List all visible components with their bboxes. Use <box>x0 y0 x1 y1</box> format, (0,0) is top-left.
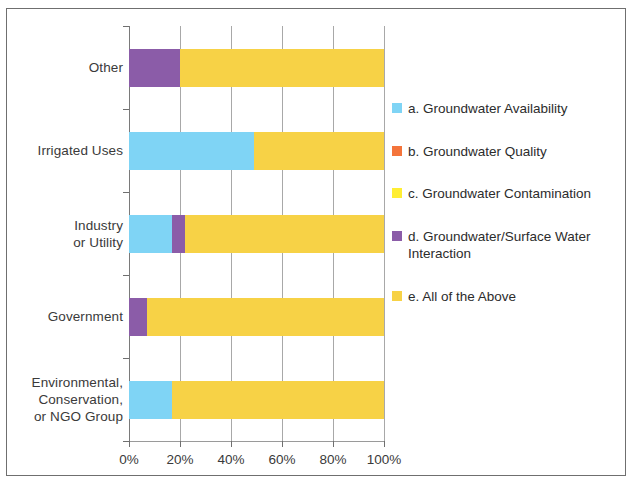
gridline <box>384 26 385 441</box>
bar-segment-d <box>129 49 180 87</box>
y-axis-category-label: Irrigated Uses <box>3 142 123 159</box>
category-label-line: Government <box>3 308 123 325</box>
y-axis-tick <box>123 192 129 193</box>
y-axis-tick <box>123 358 129 359</box>
y-axis-tick <box>123 26 129 27</box>
bar-segment-e <box>185 215 384 253</box>
y-axis-category-label: Industryor Utility <box>3 217 123 251</box>
legend-swatch-icon <box>392 188 402 198</box>
y-axis-labels: OtherIrrigated UsesIndustryor UtilityGov… <box>0 26 123 441</box>
y-axis-category-label: Other <box>3 59 123 76</box>
category-label-line: Irrigated Uses <box>3 142 123 159</box>
legend-label: e. All of the Above <box>408 288 516 306</box>
legend-label: d. Groundwater/Surface Water Interaction <box>408 228 626 263</box>
bar-row <box>129 298 384 336</box>
bar-segment-a <box>129 215 172 253</box>
x-tick-label: 20% <box>166 452 193 467</box>
x-tick-label: 80% <box>319 452 346 467</box>
legend-label: a. Groundwater Availability <box>408 100 568 118</box>
category-label-line: or NGO Group <box>3 408 123 425</box>
legend-label: b. Groundwater Quality <box>408 143 547 161</box>
chart-legend: a. Groundwater Availabilityb. Groundwate… <box>392 100 626 330</box>
bar-segment-e <box>254 132 384 170</box>
category-label-line: Industry <box>3 217 123 234</box>
legend-swatch-icon <box>392 231 402 241</box>
bar-row <box>129 132 384 170</box>
plot-area <box>129 26 384 441</box>
y-axis-category-label: Government <box>3 308 123 325</box>
legend-item[interactable]: e. All of the Above <box>392 288 626 306</box>
bar-segment-d <box>129 298 147 336</box>
x-axis-tick-labels: 0%20%40%60%80%100% <box>129 452 384 472</box>
legend-swatch-icon <box>392 146 402 156</box>
legend-swatch-icon <box>392 291 402 301</box>
x-tick-label: 40% <box>217 452 244 467</box>
bar-segment-d <box>172 215 185 253</box>
x-axis-tick <box>282 441 283 447</box>
x-axis-tick <box>333 441 334 447</box>
bar-segment-e <box>147 298 384 336</box>
x-axis-tick <box>384 441 385 447</box>
bar-row <box>129 381 384 419</box>
bar-row <box>129 215 384 253</box>
category-label-line: Conservation, <box>3 391 123 408</box>
bar-segment-a <box>129 132 254 170</box>
x-tick-label: 100% <box>367 452 402 467</box>
legend-item[interactable]: a. Groundwater Availability <box>392 100 626 118</box>
legend-item[interactable]: d. Groundwater/Surface Water Interaction <box>392 228 626 263</box>
x-tick-label: 60% <box>268 452 295 467</box>
category-label-line: or Utility <box>3 234 123 251</box>
category-label-line: Other <box>3 59 123 76</box>
chart-figure: OtherIrrigated UsesIndustryor UtilityGov… <box>0 0 631 479</box>
bar-segment-a <box>129 381 172 419</box>
y-axis-tick <box>123 109 129 110</box>
x-axis-tick <box>129 441 130 447</box>
x-axis-tick <box>231 441 232 447</box>
bar-segment-e <box>172 381 384 419</box>
x-axis-tick <box>180 441 181 447</box>
x-axis-line <box>129 441 385 442</box>
y-axis-tick <box>123 441 129 442</box>
category-label-line: Environmental, <box>3 374 123 391</box>
bar-row <box>129 49 384 87</box>
legend-item[interactable]: b. Groundwater Quality <box>392 143 626 161</box>
bar-segment-e <box>180 49 384 87</box>
x-tick-label: 0% <box>119 452 139 467</box>
y-axis-category-label: Environmental,Conservation,or NGO Group <box>3 374 123 425</box>
y-axis-tick <box>123 275 129 276</box>
legend-swatch-icon <box>392 103 402 113</box>
legend-label: c. Groundwater Contamination <box>408 185 591 203</box>
legend-item[interactable]: c. Groundwater Contamination <box>392 185 626 203</box>
